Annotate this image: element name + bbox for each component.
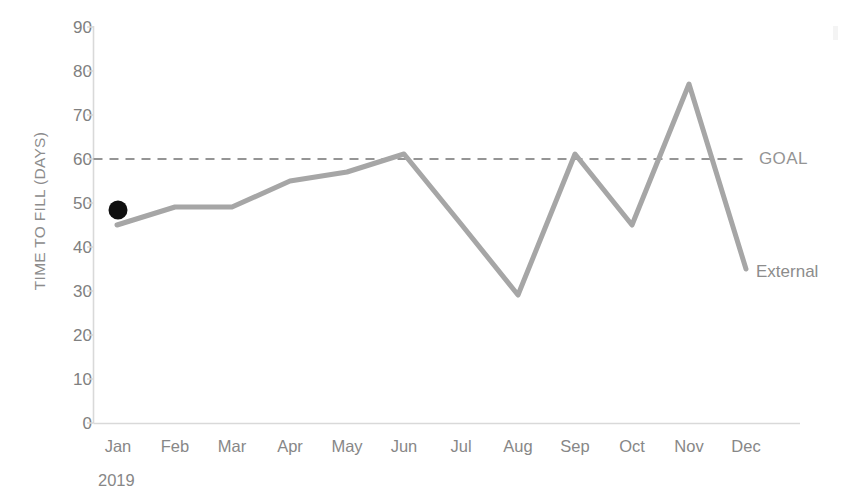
plot-area [0, 0, 855, 500]
series-label-external: External [756, 263, 818, 280]
x-tick-label-dec: Dec [720, 438, 772, 455]
x-axis-period-label: 2019 [98, 472, 135, 489]
x-tick-label-jul: Jul [435, 438, 487, 455]
x-tick-label-apr: Apr [264, 438, 316, 455]
x-tick-label-may: May [321, 438, 373, 455]
y-axis-ticks [87, 27, 94, 423]
x-tick-label-mar: Mar [206, 438, 258, 455]
x-tick-label-jun: Jun [378, 438, 430, 455]
x-tick-label-jan: Jan [92, 438, 144, 455]
x-tick-label-oct: Oct [606, 438, 658, 455]
time-to-fill-line-chart: TIME TO FILL (DAYS) 90 80 70 60 50 40 30… [0, 0, 855, 500]
x-tick-label-aug: Aug [492, 438, 544, 455]
x-tick-label-nov: Nov [663, 438, 715, 455]
x-tick-label-sep: Sep [549, 438, 601, 455]
scan-artifact [833, 26, 838, 40]
highlight-marker-jan [109, 201, 128, 220]
x-tick-label-feb: Feb [149, 438, 201, 455]
goal-line-label: GOAL [759, 150, 808, 167]
external-series-line [117, 84, 746, 295]
